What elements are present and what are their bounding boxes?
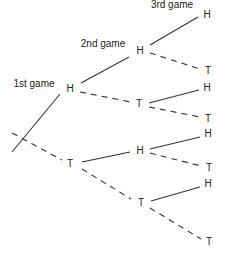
node-1-T: T — [67, 159, 73, 169]
node-3-HTH: H — [203, 83, 210, 93]
node-2-TT: T — [138, 198, 144, 208]
edge-HT-HTH — [149, 90, 199, 103]
node-3-TTT: T — [206, 237, 212, 247]
edge-HH-HHT — [150, 53, 200, 69]
node-3-HHT: T — [205, 66, 211, 76]
node-3-HHH: H — [203, 10, 210, 20]
edge-TH-THH — [150, 137, 200, 149]
node-2-HH: H — [136, 46, 143, 56]
node-2-TH: H — [136, 146, 143, 156]
node-2-HT: T — [136, 99, 142, 109]
node-3-HTT: T — [205, 114, 211, 124]
node-3-THT: T — [206, 163, 212, 173]
edge-HT-HTT — [149, 107, 200, 117]
node-3-TTH: H — [204, 179, 211, 189]
edge-T-TH — [82, 152, 130, 162]
edge-HH-HHH — [150, 17, 198, 45]
edge-root-H — [12, 94, 60, 152]
edge-T-TT — [82, 169, 131, 199]
edge-TH-THT — [150, 153, 201, 166]
edge-H-HH — [81, 57, 129, 83]
header-3rd-game: 3rd game — [151, 0, 193, 10]
edge-TT-TTT — [150, 208, 201, 239]
edge-H-HT — [80, 92, 131, 102]
edge-TT-TTH — [151, 187, 200, 201]
header-2nd-game: 2nd game — [81, 39, 125, 49]
node-1-H: H — [66, 84, 73, 94]
header-1st-game: 1st game — [13, 79, 54, 89]
edge-root-T-shown — [12, 133, 62, 160]
node-3-THH: H — [204, 129, 211, 139]
